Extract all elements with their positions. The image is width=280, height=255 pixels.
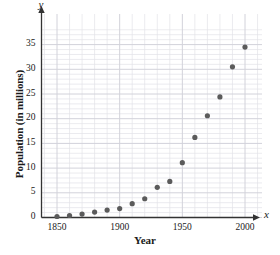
data-point (79, 211, 84, 216)
data-point (242, 44, 247, 49)
y-tick-label: 30 (16, 63, 36, 73)
y-tick-label: 25 (16, 88, 36, 98)
data-point (155, 185, 160, 190)
data-point (217, 94, 222, 99)
y-tick-label: 20 (16, 112, 36, 122)
x-axis-letter: x (264, 208, 269, 220)
data-point (192, 135, 197, 140)
x-tick-label: 2000 (225, 222, 265, 232)
plot-canvas (0, 0, 280, 255)
y-tick-label: 5 (16, 186, 36, 196)
y-axis-letter: y (39, 0, 44, 10)
data-point (205, 113, 210, 118)
y-tick-label: 0 (16, 211, 36, 221)
axis-lines (38, 6, 260, 221)
y-tick-label: 15 (16, 137, 36, 147)
data-point (54, 214, 59, 219)
data-point (67, 213, 72, 218)
y-tick-label: 35 (16, 38, 36, 48)
data-point (230, 64, 235, 69)
x-tick-label: 1900 (100, 222, 140, 232)
data-point (167, 179, 172, 184)
data-point (130, 201, 135, 206)
x-tick-label: 1950 (162, 222, 202, 232)
data-point (92, 209, 97, 214)
data-point (117, 206, 122, 211)
scatter-plot: Population (in millions) Year 0510152025… (0, 0, 280, 255)
x-axis-title: Year (95, 234, 195, 246)
x-axis-arrowhead (253, 214, 260, 220)
grid-major (42, 14, 263, 218)
x-tick-label: 1850 (37, 222, 77, 232)
data-point (105, 207, 110, 212)
data-point (142, 196, 147, 201)
y-tick-label: 10 (16, 162, 36, 172)
data-point (180, 160, 185, 165)
